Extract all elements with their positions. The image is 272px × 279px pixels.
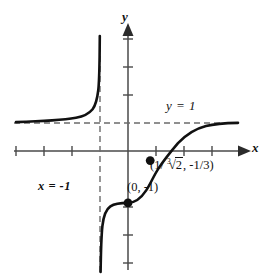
radicand: 2	[175, 157, 183, 172]
inflection-label-prefix: (1/	[150, 158, 164, 172]
curve-right-branch	[101, 123, 238, 272]
point-marker-y-intercept	[124, 199, 133, 208]
y-axis-arrowhead	[123, 23, 134, 36]
inflection-point-label: (1/3√2, -1/3)	[150, 158, 214, 172]
radical-index: 3	[167, 157, 171, 166]
vertical-asymptote-label: x = -1	[38, 180, 71, 193]
function-graph-figure: y x y = 1 x = -1 (1/3√2, -1/3) (0, -1)	[0, 0, 272, 279]
x-axis-label: x	[252, 141, 259, 154]
inflection-label-suffix: , -1/3)	[183, 158, 214, 172]
curve-left-branch	[16, 36, 100, 122]
horizontal-asymptote-label: y = 1	[166, 99, 196, 112]
plot-canvas	[0, 0, 272, 279]
cube-root-radical: 3√2	[164, 158, 183, 172]
y-intercept-label: (0, -1)	[127, 181, 158, 194]
x-axis-arrowhead	[238, 146, 251, 157]
y-axis-label: y	[122, 10, 128, 23]
